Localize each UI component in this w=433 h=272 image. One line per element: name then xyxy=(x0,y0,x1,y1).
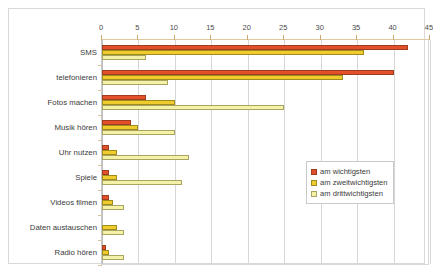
bar-2 xyxy=(102,230,124,235)
bar-2 xyxy=(102,130,175,135)
legend-label: am wichtigsten xyxy=(320,167,370,177)
chart-screenshot: 051015202530354045 SMStelefonierenFotos … xyxy=(0,0,433,272)
x-tick-label-15: 15 xyxy=(206,23,214,33)
category-label: Daten austauschen xyxy=(30,223,97,233)
category-row: SMS xyxy=(102,40,428,65)
legend-item[interactable]: am drittwichtigsten xyxy=(311,188,388,199)
bar-2 xyxy=(102,205,124,210)
legend-label: am zweitwichtigsten xyxy=(320,178,388,188)
x-tick-label-25: 25 xyxy=(279,23,287,33)
category-row: Musik hören xyxy=(102,115,428,140)
category-label: Musik hören xyxy=(55,123,97,133)
gridline-45 xyxy=(430,40,431,264)
bar-2 xyxy=(102,155,189,160)
x-tick-label-0: 0 xyxy=(99,23,103,33)
value-axis-ticks: 051015202530354045 xyxy=(101,23,429,40)
x-tick-label-20: 20 xyxy=(243,23,251,33)
x-tick-label-40: 40 xyxy=(388,23,396,33)
category-row: telefonieren xyxy=(102,65,428,90)
category-label: SMS xyxy=(80,48,97,58)
x-tick-label-5: 5 xyxy=(135,23,139,33)
category-label: Spiele xyxy=(75,173,97,183)
x-tick-label-10: 10 xyxy=(170,23,178,33)
legend-swatch-icon xyxy=(311,180,317,186)
legend-swatch-icon xyxy=(311,191,317,197)
x-tick-label-35: 35 xyxy=(352,23,360,33)
chart-legend: am wichtigstenam zweitwichtigstenam drit… xyxy=(306,161,394,204)
category-label: Radio hören xyxy=(55,248,97,258)
legend-item[interactable]: am wichtigsten xyxy=(311,166,388,177)
bar-2 xyxy=(102,105,284,110)
legend-label: am drittwichtigsten xyxy=(320,189,383,199)
category-label: Uhr nutzen xyxy=(59,148,97,158)
category-label: Videos filmen xyxy=(50,198,97,208)
category-label: Fotos machen xyxy=(48,98,97,108)
x-tick-label-30: 30 xyxy=(315,23,323,33)
category-axis-tick xyxy=(98,265,102,266)
category-row: Fotos machen xyxy=(102,90,428,115)
legend-swatch-icon xyxy=(311,169,317,175)
category-row: Radio hören xyxy=(102,240,428,265)
bar-2 xyxy=(102,255,124,260)
x-tick-label-45: 45 xyxy=(425,23,433,33)
plot-area: SMStelefonierenFotos machenMusik hörenUh… xyxy=(101,40,429,265)
category-label: telefonieren xyxy=(56,73,97,83)
chart-frame: 051015202530354045 SMStelefonierenFotos … xyxy=(8,8,425,264)
bar-2 xyxy=(102,180,182,185)
category-row: Daten austauschen xyxy=(102,215,428,240)
bar-2 xyxy=(102,55,146,60)
bar-2 xyxy=(102,80,168,85)
legend-item[interactable]: am zweitwichtigsten xyxy=(311,177,388,188)
